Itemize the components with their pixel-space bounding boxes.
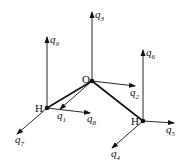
label-q5: q5 <box>166 123 176 138</box>
label-q9: q9 <box>50 33 60 48</box>
label-q8: q8 <box>87 112 97 127</box>
label-q7: q7 <box>15 133 25 148</box>
vector-q1-arrow <box>60 81 92 109</box>
label-q3: q3 <box>95 8 105 23</box>
vector-q8-arrow <box>47 108 90 113</box>
water-displacement-coordinates-diagram: O H H q3 q2 q1 q9 q8 q7 q6 q5 q4 <box>0 0 185 167</box>
atom-h2-dot <box>141 119 146 124</box>
atom-h1-label: H <box>35 102 43 114</box>
label-q1: q1 <box>57 109 66 124</box>
atom-o-dot <box>90 79 95 84</box>
atom-o-label: O <box>82 73 90 85</box>
atom-h1-dot <box>45 106 50 111</box>
label-q6: q6 <box>146 46 156 61</box>
label-q4: q4 <box>111 147 121 162</box>
atom-h2-label: H <box>131 115 139 127</box>
bond-o-h1 <box>47 81 92 108</box>
label-q2: q2 <box>130 86 140 101</box>
